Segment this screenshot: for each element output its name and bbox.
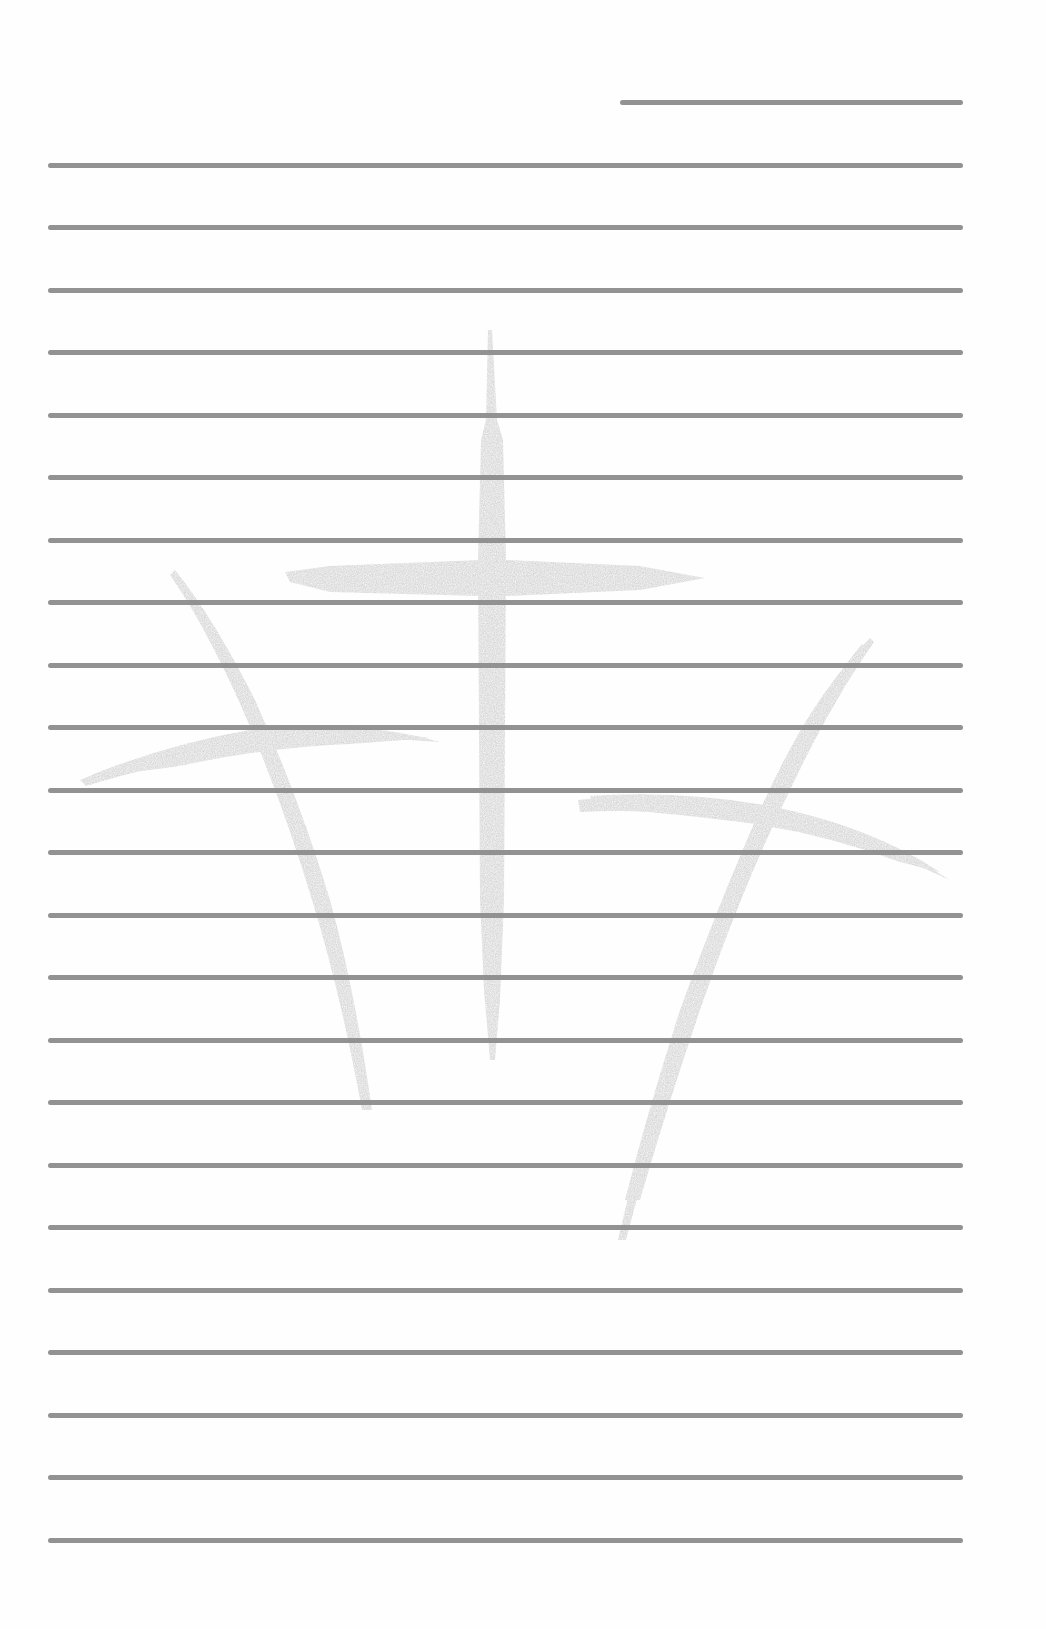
ruled-line xyxy=(48,1475,963,1480)
left-cross-vertical xyxy=(170,570,372,1110)
ruled-line xyxy=(48,538,963,543)
ruled-line xyxy=(48,288,963,293)
ruled-line xyxy=(48,663,963,668)
ruled-line xyxy=(48,850,963,855)
ruled-line xyxy=(48,1225,963,1230)
ruled-line xyxy=(48,1413,963,1418)
ruled-line xyxy=(48,975,963,980)
right-cross-horizontal xyxy=(578,796,950,880)
header-line xyxy=(620,100,963,105)
ruled-line xyxy=(48,475,963,480)
ruled-line xyxy=(48,163,963,168)
ruled-line xyxy=(48,725,963,730)
ruled-line xyxy=(48,225,963,230)
ruled-line xyxy=(48,600,963,605)
ruled-line xyxy=(48,913,963,918)
three-crosses-watermark-icon xyxy=(0,0,1046,1629)
ruled-line xyxy=(48,1288,963,1293)
center-cross-horizontal xyxy=(285,560,705,596)
ruled-line xyxy=(48,1038,963,1043)
ruled-line xyxy=(48,1100,963,1105)
center-cross-vertical xyxy=(478,330,506,1060)
ruled-line xyxy=(48,350,963,355)
lined-paper-page xyxy=(0,0,1046,1629)
ruled-line xyxy=(48,413,963,418)
left-cross-horizontal xyxy=(80,725,440,786)
ruled-line xyxy=(48,1350,963,1355)
ruled-line xyxy=(48,788,963,793)
ruled-line xyxy=(48,1538,963,1543)
ruled-line xyxy=(48,1163,963,1168)
